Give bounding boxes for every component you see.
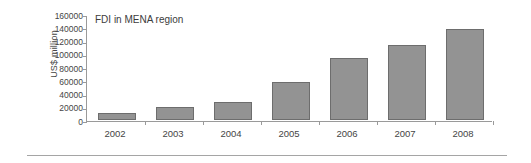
y-axis-tick-labels: 0200004000060000800001000001200001400001… bbox=[42, 11, 83, 126]
y-tick-label: 40000 bbox=[59, 91, 83, 100]
y-tick-label: 60000 bbox=[59, 78, 83, 87]
y-tick-mark bbox=[83, 82, 87, 83]
bar-2007[interactable] bbox=[388, 45, 426, 120]
y-tick-label: 140000 bbox=[55, 25, 83, 34]
y-tick-mark bbox=[83, 122, 87, 123]
bar-slot bbox=[204, 16, 262, 120]
x-tick-mark bbox=[319, 121, 320, 125]
y-tick-label: 80000 bbox=[59, 65, 83, 74]
x-tick-label: 2002 bbox=[104, 128, 125, 139]
y-tick-mark bbox=[83, 43, 87, 44]
x-tick-label: 2003 bbox=[162, 128, 183, 139]
x-tick-mark bbox=[435, 121, 436, 125]
y-tick-mark bbox=[83, 29, 87, 30]
bar-2006[interactable] bbox=[330, 58, 368, 120]
x-tick-mark bbox=[203, 121, 204, 125]
y-tick-label: 20000 bbox=[59, 104, 83, 113]
x-tick-mark bbox=[261, 121, 262, 125]
x-tick-label: 2008 bbox=[452, 128, 473, 139]
bar-series bbox=[88, 16, 492, 120]
x-tick-label: 2006 bbox=[336, 128, 357, 139]
y-tick-mark bbox=[83, 16, 87, 17]
y-tick-label: 100000 bbox=[55, 51, 83, 60]
bar-slot bbox=[262, 16, 320, 120]
x-tick-label: 2007 bbox=[394, 128, 415, 139]
y-tick-mark bbox=[83, 69, 87, 70]
y-tick-label: 160000 bbox=[55, 12, 83, 21]
x-axis-tick-labels: 2002200320042005200620072008 bbox=[86, 128, 492, 142]
bar-slot bbox=[88, 16, 146, 120]
x-tick-label: 2005 bbox=[278, 128, 299, 139]
bar-2004[interactable] bbox=[214, 102, 252, 120]
bar-2002[interactable] bbox=[98, 113, 136, 120]
bar-2003[interactable] bbox=[156, 107, 194, 120]
fdi-bar-chart-figure: US$ million 0200004000060000800001000001… bbox=[0, 0, 531, 163]
bar-slot bbox=[436, 16, 494, 120]
plot-area: FDI in MENA region bbox=[86, 16, 492, 122]
y-tick-mark bbox=[83, 56, 87, 57]
x-tick-mark bbox=[493, 121, 494, 125]
x-tick-mark bbox=[145, 121, 146, 125]
bar-2008[interactable] bbox=[446, 29, 484, 120]
bar-2005[interactable] bbox=[272, 82, 310, 120]
bottom-divider bbox=[27, 155, 507, 156]
y-tick-mark bbox=[83, 109, 87, 110]
bar-slot bbox=[146, 16, 204, 120]
x-tick-label: 2004 bbox=[220, 128, 241, 139]
y-tick-mark bbox=[83, 96, 87, 97]
bar-slot bbox=[320, 16, 378, 120]
y-tick-label: 120000 bbox=[55, 38, 83, 47]
x-tick-mark bbox=[377, 121, 378, 125]
bar-slot bbox=[378, 16, 436, 120]
